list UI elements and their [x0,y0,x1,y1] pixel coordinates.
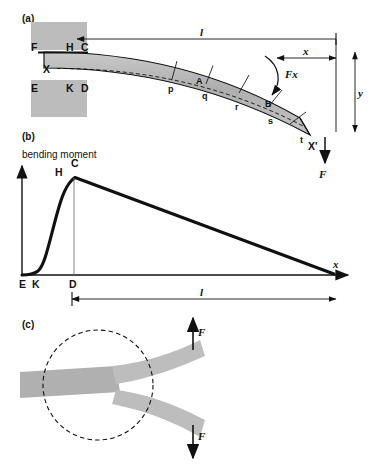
label-q-section: q [202,91,208,101]
label-F-lower: F [197,430,206,442]
label-B-element: B [265,99,272,109]
label-X-prime-axis-end: X' [308,140,318,152]
label-C-beam-top: C [81,41,89,53]
bm-label-K: K [32,278,40,290]
label-H-clamp: H [66,41,74,53]
label-t-beam-corner: t [300,135,303,145]
label-A-element: A [196,76,203,86]
label-p-section: p [168,84,174,94]
label-X-axis-start: X [43,63,50,75]
label-Fx-moment: Fx [284,68,298,80]
label-r-section: r [235,102,239,112]
label-D-beam-bottom: D [81,82,89,94]
bending-moment-axis-title: bending moment [22,149,97,160]
label-y-deflection: y [356,87,363,99]
panel-c-label: (c) [22,319,34,330]
clamp-block-lower [31,80,87,117]
bm-label-C: C [71,157,79,169]
clamp-block-upper [31,22,87,50]
label-F-force-tip: F [318,168,327,180]
label-F-clamp: F [31,41,38,53]
bm-label-E: E [19,278,26,290]
label-K-clamp: K [66,82,74,94]
bm-label-H: H [55,166,63,178]
mechanics-figure: (a) F H C E K D X X' A B p q [0,0,368,468]
panel-b-label: (b) [22,131,35,142]
bm-x-axis-title: x [332,258,339,270]
label-x-distance: x [302,45,309,57]
bm-label-D: D [69,278,77,290]
label-s-section: s [268,116,273,126]
label-E-clamp: E [31,82,38,94]
label-F-upper: F [197,326,206,338]
